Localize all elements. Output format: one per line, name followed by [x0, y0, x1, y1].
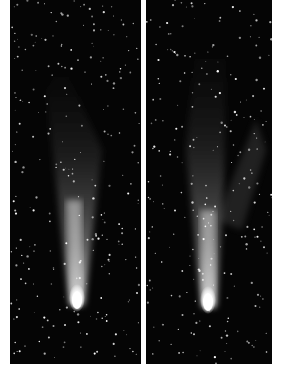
comet-photo-right — [146, 0, 272, 364]
comet-image-left — [10, 0, 141, 364]
comet-photo-left — [10, 0, 141, 364]
comet-image-right — [146, 0, 272, 364]
